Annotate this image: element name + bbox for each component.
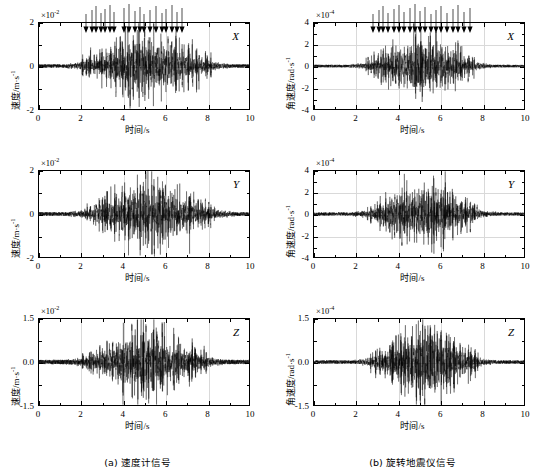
y-tick-label: 0	[0, 210, 34, 219]
y-tick-label: 0.0	[0, 358, 34, 367]
axis-tick	[520, 89, 524, 90]
axis-tick-minor	[314, 56, 317, 57]
axis-tick	[39, 401, 40, 405]
axis-tick-minor	[420, 107, 421, 110]
axis-tick	[81, 319, 82, 323]
x-tick-label: 10	[246, 262, 255, 271]
x-tick-label: 6	[163, 410, 168, 419]
x-tick-label: 0	[311, 262, 316, 271]
axis-tick	[520, 215, 524, 216]
plot-area: Z	[38, 318, 250, 406]
axis-tick	[209, 105, 210, 109]
plot-panel-a-y: ×10-2Y024681020-2时间/s速度/m·s-1	[0, 148, 275, 295]
waveform-trace	[314, 171, 524, 257]
axis-tick-minor	[522, 34, 525, 35]
axis-tick-minor	[39, 341, 42, 342]
axis-tick	[314, 45, 318, 46]
axis-tick-minor	[505, 255, 506, 258]
annotation-arrow	[466, 4, 473, 34]
axis-tick-minor	[420, 171, 421, 174]
peak-annotation-arrows	[38, 4, 250, 34]
axis-tick-minor	[378, 403, 379, 406]
axis-tick-minor	[335, 255, 336, 258]
axis-tick	[314, 105, 315, 109]
axis-tick	[124, 319, 125, 323]
axis-tick	[314, 171, 318, 172]
axis-tick-minor	[145, 319, 146, 322]
x-tick-label: 0	[311, 114, 316, 123]
y-tick-label: 1.5	[0, 314, 34, 323]
axis-tick	[399, 401, 400, 405]
y-tick-label: 2	[0, 18, 34, 27]
plot-panel-a-z: ×10-2Z02468101.50.0-1.5时间/s速度/m·s-1	[0, 296, 275, 443]
waveform-trace	[314, 319, 524, 405]
axis-tick	[39, 105, 40, 109]
axis-tick-minor	[505, 319, 506, 322]
annotation-arrow	[179, 4, 186, 34]
axis-tick-minor	[505, 171, 506, 174]
axis-tick-minor	[60, 403, 61, 406]
axis-tick	[356, 105, 357, 109]
axis-tick	[314, 363, 318, 364]
axis-tick-minor	[230, 319, 231, 322]
axis-tick	[356, 253, 357, 257]
axis-tick-minor	[314, 100, 317, 101]
axis-tick-minor	[462, 107, 463, 110]
x-axis-label: 时间/s	[0, 422, 275, 431]
y-tick-label: 2	[0, 166, 34, 175]
axis-tick	[520, 319, 524, 320]
axis-tick-minor	[187, 171, 188, 174]
axis-tick	[245, 171, 249, 172]
x-tick-label: 8	[480, 262, 485, 271]
waveform-trace	[39, 23, 249, 109]
axis-tick	[81, 105, 82, 109]
axis-tick-minor	[103, 171, 104, 174]
axis-tick-minor	[505, 403, 506, 406]
x-axis-label: 时间/s	[275, 422, 550, 431]
axis-tick-minor	[187, 255, 188, 258]
axis-tick	[245, 67, 249, 68]
axis-tick-minor	[522, 204, 525, 205]
axis-tick-minor	[145, 403, 146, 406]
axis-tick-minor	[335, 107, 336, 110]
axis-tick-minor	[335, 403, 336, 406]
axis-tick	[39, 253, 40, 257]
axis-tick	[314, 253, 315, 257]
axis-tick	[39, 215, 43, 216]
axis-tick-minor	[314, 248, 317, 249]
axis-tick-minor	[145, 107, 146, 110]
axis-tick	[124, 105, 125, 109]
plot-panel-b-x: ×10-4X0246810420-2-4时间/s角速度/rad·s-1	[275, 0, 550, 147]
axis-tick	[209, 319, 210, 323]
seismic-signal-figure: ×10-2X024681020-2时间/s速度/m·s-1×10-2Y02468…	[0, 0, 550, 472]
y-tick-label: 4	[275, 166, 309, 175]
y-tick-label: 2	[275, 188, 309, 197]
axis-tick-minor	[187, 319, 188, 322]
y-tick-label: 0	[0, 62, 34, 71]
axis-tick-minor	[522, 182, 525, 183]
x-tick-label: 8	[205, 410, 210, 419]
axis-tick-minor	[145, 171, 146, 174]
axis-tick-minor	[230, 107, 231, 110]
axis-tick	[520, 193, 524, 194]
axis-tick	[520, 171, 524, 172]
axis-tick-minor	[420, 319, 421, 322]
axis-tick-minor	[145, 255, 146, 258]
x-tick-label: 6	[163, 262, 168, 271]
x-tick-label: 4	[121, 262, 126, 271]
axis-tick-minor	[247, 193, 250, 194]
axis-tick	[209, 401, 210, 405]
peak-annotation-arrows	[313, 4, 525, 34]
waveform-trace	[39, 171, 249, 257]
y-axis-label: 角速度/rad·s-1	[287, 57, 296, 110]
axis-tick-minor	[462, 255, 463, 258]
waveform-trace	[39, 319, 249, 405]
axis-tick-minor	[39, 193, 42, 194]
x-tick-label: 6	[438, 114, 443, 123]
axis-tick	[209, 253, 210, 257]
axis-tick	[399, 319, 400, 323]
y-axis-label: 角速度/rad·s-1	[287, 353, 296, 406]
axis-tick-minor	[230, 403, 231, 406]
axis-tick-minor	[505, 107, 506, 110]
axis-tick	[166, 171, 167, 175]
